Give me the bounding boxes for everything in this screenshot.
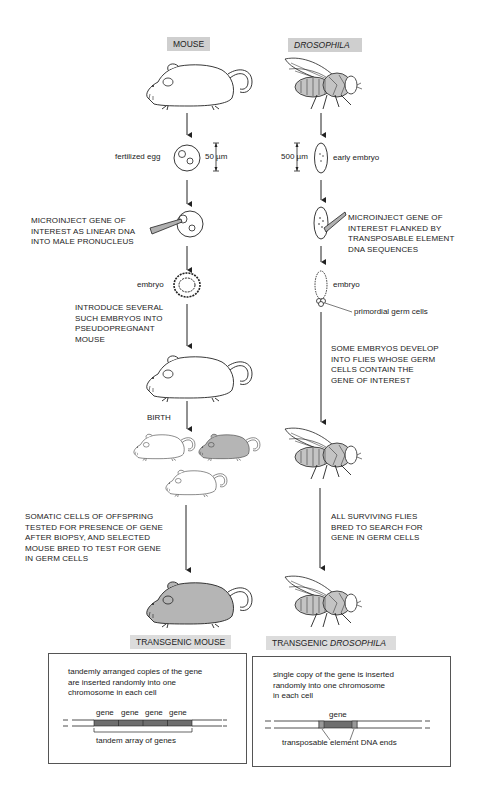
- chromosome-diagrams: [0, 0, 479, 794]
- fly-chromosome: [265, 721, 430, 740]
- mouse-chromosome: [63, 720, 227, 732]
